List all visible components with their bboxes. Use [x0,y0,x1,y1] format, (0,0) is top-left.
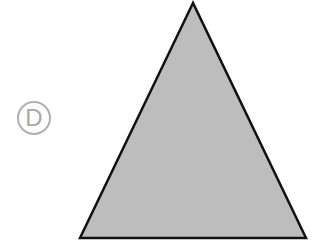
triangle-figure [0,0,335,250]
triangle-shape [80,3,306,238]
